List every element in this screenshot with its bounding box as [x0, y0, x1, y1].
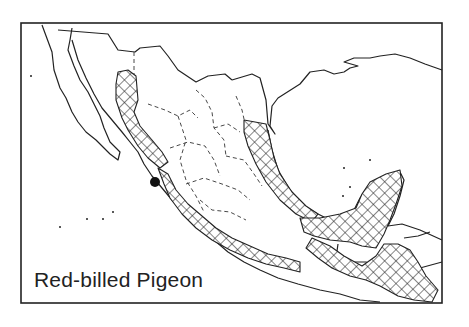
isolated-record-dot [150, 177, 160, 187]
island-dot [102, 218, 104, 220]
island-dot [59, 226, 61, 228]
central-america-coast [388, 224, 442, 240]
range-west-slope [116, 70, 168, 168]
range-gulf-slope [244, 120, 318, 222]
island-dot [342, 195, 344, 197]
species-label: Red-billed Pigeon [34, 268, 203, 292]
island-dot [86, 218, 88, 220]
island-dot [349, 186, 351, 188]
baja-california [42, 25, 120, 160]
island-dot [369, 159, 371, 161]
island-dot [343, 167, 345, 169]
range-isthmus-yucatan [300, 170, 402, 248]
island-dot [30, 75, 32, 77]
central-america-border [404, 232, 430, 238]
gulf-coast [232, 54, 442, 134]
island-dot [112, 211, 114, 213]
